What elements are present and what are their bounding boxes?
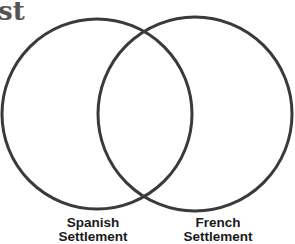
- french-settlement-label: French Settlement: [163, 216, 273, 244]
- spanish-settlement-label: Spanish Settlement: [38, 216, 148, 244]
- french-settlement-circle: [98, 17, 292, 211]
- label-line: Settlement: [38, 230, 148, 244]
- label-line: French: [163, 216, 273, 230]
- venn-diagram: [0, 0, 295, 244]
- label-line: Spanish: [38, 216, 148, 230]
- label-line: Settlement: [163, 230, 273, 244]
